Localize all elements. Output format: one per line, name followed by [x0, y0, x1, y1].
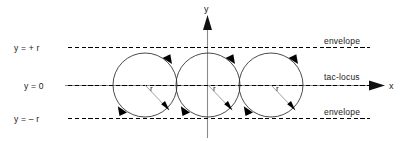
label-y-minus-r: y = – r: [14, 114, 39, 124]
label-envelope-lower: envelope: [324, 107, 360, 117]
label-envelope-upper: envelope: [324, 36, 360, 46]
radius-label: r: [213, 84, 216, 93]
label-y-plus-r: y = + r: [14, 43, 40, 53]
label-y-zero: y = 0: [24, 81, 44, 91]
figure-canvas: r r r y = + r y = 0 y = – r envelope tac…: [0, 0, 401, 141]
cycloid-envelope-diagram: r r r y = + r y = 0 y = – r envelope tac…: [0, 0, 401, 141]
radius-label: r: [150, 84, 153, 93]
radius-arrowhead: [287, 101, 295, 111]
radius-arrowhead: [224, 101, 232, 111]
y-axis-arrowhead: [203, 15, 212, 30]
radius-arrowhead: [161, 101, 169, 111]
x-axis-arrowhead: [369, 81, 385, 91]
x-axis-label: x: [389, 81, 394, 91]
radius-label: r: [276, 84, 279, 93]
label-tac-locus: tac-locus: [324, 72, 360, 82]
y-axis-label: y: [204, 4, 209, 14]
